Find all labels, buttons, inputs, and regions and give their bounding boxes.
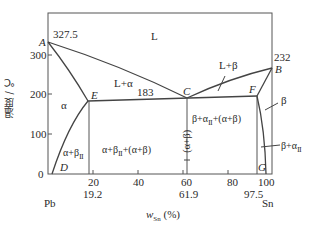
point-d: D — [60, 162, 68, 173]
ytick-300: 300 — [30, 50, 47, 61]
beta-alpha-leader — [261, 145, 280, 147]
region-beta-alpha-ii-sub: Ⅱ — [297, 146, 302, 154]
cb-curve-mark — [218, 76, 225, 91]
region-hypereutectic-tail: +(α+β) — [213, 113, 241, 124]
solvus-ed — [52, 101, 88, 174]
region-l-alpha: L+α — [114, 78, 133, 89]
element-pb: Pb — [44, 198, 56, 209]
point-a: A — [39, 37, 46, 48]
region-hypoeutectic-main: α+β — [102, 144, 118, 155]
ytick-100: 100 — [30, 129, 47, 140]
region-hypoeutectic: α+βⅡ+(α+β) — [102, 144, 151, 160]
x-axis-label: wSn (%) — [146, 209, 180, 225]
region-l: L — [151, 31, 158, 42]
point-c: C — [183, 86, 190, 97]
xtick-100: 100 — [258, 177, 275, 188]
region-l-beta: L+β — [219, 60, 238, 71]
region-alpha-beta-ii-main: α+β — [63, 147, 79, 158]
region-beta-alpha-ii: β+αⅡ — [281, 140, 302, 156]
solidus-ae — [48, 42, 88, 101]
comp-e-value: 19.2 — [83, 189, 102, 200]
xtick-40: 40 — [133, 177, 144, 188]
x-axis-label-unit: (%) — [164, 208, 181, 220]
comp-f-value: 97.5 — [244, 189, 263, 200]
eutectic-line — [88, 96, 257, 101]
point-b: B — [275, 64, 282, 75]
ytick-0: 0 — [38, 169, 44, 180]
y-axis-label: 温度 / ℃ — [4, 77, 15, 118]
x-axis-label-sub: Sn — [153, 215, 160, 223]
region-beta-alpha-ii-main: β+α — [281, 140, 297, 151]
eutectic-temp-value: 183 — [137, 87, 154, 98]
comp-c-value: 61.9 — [179, 189, 198, 200]
point-f: F — [249, 84, 256, 95]
region-alpha-beta-ii-sub: Ⅱ — [79, 153, 84, 161]
region-beta: β — [281, 95, 287, 106]
xtick-80: 80 — [227, 177, 238, 188]
y-ticks — [48, 55, 52, 134]
temp-a-value: 327.5 — [53, 29, 78, 40]
element-sn: Sn — [262, 198, 274, 209]
point-g: G — [258, 162, 266, 173]
region-hypereutectic-main: β+α — [192, 113, 208, 124]
x-ticks — [93, 170, 228, 174]
region-eutectic: (α+β) — [181, 130, 192, 153]
liquidus-cb — [187, 68, 272, 98]
point-e: E — [91, 90, 98, 101]
temp-b-value: 232 — [274, 52, 291, 63]
xtick-20: 20 — [88, 177, 99, 188]
solidus-bf — [257, 68, 272, 96]
region-hypereutectic: β+αⅡ+(α+β) — [192, 113, 241, 129]
region-hypoeutectic-tail: +(α+β) — [123, 144, 151, 155]
region-alpha-beta-ii: α+βⅡ — [63, 147, 84, 163]
xtick-60: 60 — [181, 177, 192, 188]
ytick-200: 200 — [30, 89, 47, 100]
region-alpha: α — [61, 100, 67, 111]
